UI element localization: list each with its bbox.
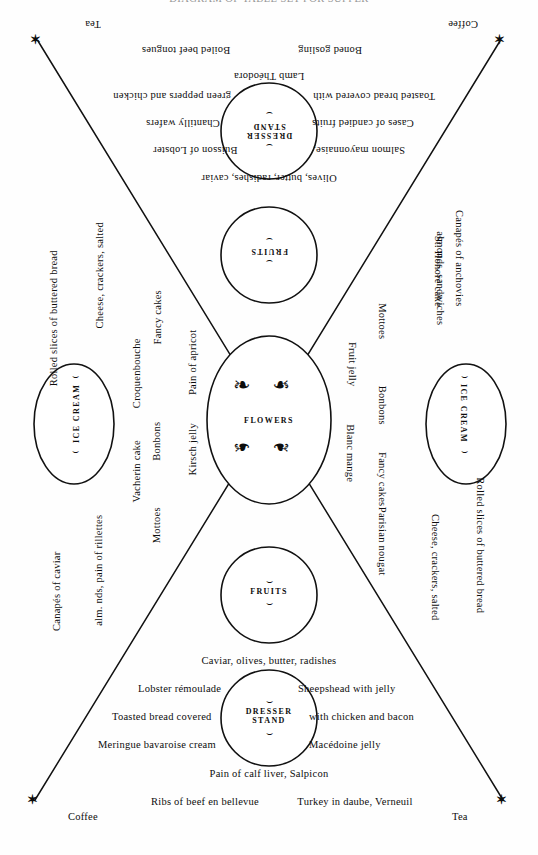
right-middle-parisian-nougat: Parisian nougat: [377, 492, 388, 590]
left-ice-cream-label: ⌣ ICE CREAM ⌣: [65, 363, 84, 463]
ornament-icon: ⌣: [72, 371, 79, 382]
left-middle-vacherin: Vacherin cake: [132, 426, 143, 516]
bottom-toasted-bread: Toasted bread covered: [112, 712, 212, 723]
flower-ornament-icon-bottom-left: ❧: [233, 436, 251, 457]
flower-ornament-icon-bottom-right: ❧: [272, 436, 290, 457]
top-olives-row: Olives, butter, radishes, caviar: [201, 172, 336, 183]
corner-marker-top-right: ✶: [494, 33, 505, 46]
flower-ornament-icon-top-right: ❧: [272, 375, 290, 396]
ornament-icon: ⌣: [229, 727, 309, 738]
table-setting-diagram: DIAGRAM OF TABLE SET FOR SUPPER ✶ ✶: [0, 0, 538, 855]
top-dresser-stand-label: ⌣ DRESSER STAND ⌣: [229, 108, 309, 153]
flower-ornament-icon-top-left: ❧: [233, 375, 251, 396]
bottom-pain-calf-liver: Pain of calf liver, Salpicon: [210, 769, 329, 780]
top-chantilly-wafers: Chantilly wafers: [146, 117, 220, 128]
left-outer-almonds: alm. nds, pain of rillettes: [94, 505, 105, 635]
top-buisson-lobster: Buisson of Lobster: [153, 144, 237, 155]
right-outer-cheese: Cheese, crackers, salted: [430, 503, 441, 631]
top-green-peppers-left: green peppers and chicken: [113, 90, 231, 101]
left-inner-kirsch: Kirsch jelly: [188, 408, 199, 490]
bottom-dresser-line1: DRESSER: [229, 707, 309, 716]
top-dresser-line2: STAND: [229, 121, 309, 130]
top-toasted-bread-right: Toasted bread covered with: [313, 90, 435, 101]
bottom-fruits-text: FRUITS: [229, 587, 309, 596]
corner-label-top-left: Tea: [85, 18, 101, 29]
bottom-dresser-line2: STAND: [229, 716, 309, 725]
right-inner-blanc-mange: Blanc mange: [345, 405, 356, 501]
corner-marker-bottom-right: ✶: [496, 793, 507, 806]
bottom-dresser-stand-label: ⌣ DRESSER STAND ⌣: [229, 694, 309, 739]
top-row-tongues: Boiled beef tongues: [142, 44, 231, 55]
corner-label-bottom-left: Coffee: [68, 812, 98, 823]
right-outer-bread: Rolled slices of buttered bread: [475, 461, 486, 629]
right-middle-mottoes: Mottoes: [377, 286, 388, 356]
right-outer-almonds: almonds, sandwiches: [435, 225, 446, 331]
corner-marker-bottom-left: ✶: [27, 793, 38, 806]
ornament-icon: ⌣: [461, 371, 468, 382]
right-middle-bonbons: Bonbons: [377, 370, 388, 440]
ornament-icon: ⌣: [229, 141, 309, 152]
bottom-turkey-daube: Turkey in daube, Verneuil: [297, 797, 412, 808]
ornament-icon: ⌣: [229, 109, 309, 120]
right-ice-cream-label: ⌣ ICE CREAM ⌣: [457, 363, 476, 463]
ornament-icon: ⌣: [229, 597, 309, 608]
left-inner-pain-apricot: Pain of apricot: [188, 317, 199, 407]
top-dresser-line1: DRESSER: [229, 130, 309, 139]
bottom-sheepshead: Sheepshead with jelly: [298, 684, 395, 695]
left-outer-cheese: Cheese, crackers, salted: [95, 205, 106, 345]
top-fruits-text: FRUITS: [229, 247, 309, 256]
ornament-icon: ⌣: [229, 257, 309, 268]
ornament-icon: ⌣: [229, 575, 309, 586]
corner-label-top-right: Coffee: [448, 18, 478, 29]
bottom-meringue: Meringue bavaroise cream: [98, 740, 216, 751]
bottom-fruits-label: ⌣ FRUITS ⌣: [229, 574, 309, 609]
corner-label-bottom-right: Tea: [452, 812, 468, 823]
left-ice-cream-text: ICE CREAM: [72, 384, 81, 443]
right-ice-cream-text: ICE CREAM: [459, 384, 468, 443]
center-flowers-text: FLOWERS: [244, 416, 294, 425]
ornament-icon: ⌣: [229, 235, 309, 246]
bottom-caviar-row: Caviar, olives, butter, radishes: [202, 656, 337, 667]
bottom-ribs-beef: Ribs of beef en bellevue: [151, 797, 259, 808]
left-middle-mottoes: Mottoes: [152, 490, 163, 560]
top-salmon-mayonnaise: Salmon mayonnaise,: [313, 144, 405, 155]
bottom-macedoine: Macédoine jelly: [309, 740, 381, 751]
left-outer-bread: Rolled slices of buttered bread: [49, 238, 60, 398]
top-row-lamb: Lamb Théodora: [234, 70, 304, 81]
top-cases-candied-fruits: Cases of candied fruits: [312, 117, 414, 128]
right-inner-fruit-jelly: Fruit jelly: [347, 325, 358, 403]
right-outer-canapes: Canapés of anchovies: [454, 198, 465, 318]
left-outer-canapes: Canapés of caviar: [52, 531, 63, 651]
ornament-icon: ⌣: [229, 695, 309, 706]
left-middle-croquenbouche: Croquenbouche: [132, 323, 143, 423]
ornament-icon: ⌣: [461, 445, 468, 456]
left-middle-bonbons: Bonbons: [152, 406, 163, 476]
bottom-chicken-bacon: with chicken and bacon: [309, 712, 414, 723]
top-fruits-label: ⌣ FRUITS ⌣: [229, 234, 309, 269]
top-row-gosling: Boned gosling: [298, 44, 362, 55]
corner-marker-top-left: ✶: [30, 33, 41, 46]
bottom-lobster-remoulade: Lobster rémoulade: [138, 684, 221, 695]
ornament-icon: ⌣: [72, 445, 79, 456]
left-middle-fancy-cakes: Fancy cakes: [153, 277, 164, 357]
